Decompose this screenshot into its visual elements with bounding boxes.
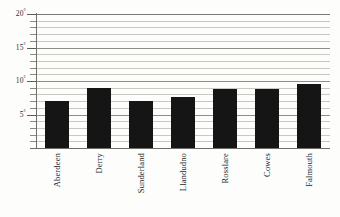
y-axis-tick-label: 20° [2, 10, 26, 18]
x-axis-category-slot: Cowes [246, 151, 288, 217]
bar [171, 97, 195, 148]
y-axis-tick-value: 10 [16, 76, 24, 85]
x-axis-category-label: Rosslare [221, 153, 230, 183]
y-axis-tick-major [27, 81, 36, 82]
x-axis-category-slot: Llandudno [162, 151, 204, 217]
y-axis-tick-major [27, 115, 36, 116]
x-axis-category-slot: Rosslare [204, 151, 246, 217]
bar [297, 84, 321, 148]
bar [87, 88, 111, 148]
bar [129, 101, 153, 148]
x-axis-category-label: Falmouth [305, 153, 314, 187]
x-axis-category-slot: Sunderland [120, 151, 162, 217]
bar [255, 89, 279, 148]
y-axis-tick-label: 15° [2, 44, 26, 52]
x-axis-category-label: Derry [95, 153, 104, 174]
degree-symbol-icon: ° [24, 8, 26, 14]
bar-chart-figure: 20°15°10°5° AberdeenDerrySunderlandLland… [0, 0, 340, 217]
y-axis-tick-value: 15 [16, 43, 24, 52]
y-axis-tick-major [27, 48, 36, 49]
x-axis-line [30, 148, 330, 149]
x-axis-category-label: Cowes [263, 153, 272, 177]
degree-symbol-icon: ° [24, 75, 26, 81]
y-axis-line [36, 13, 37, 149]
x-axis-category-slot: Aberdeen [36, 151, 78, 217]
y-axis-tick-labels: 20°15°10°5° [0, 0, 26, 217]
y-axis-tick-label: 10° [2, 77, 26, 85]
y-axis-tick-major [27, 14, 36, 15]
x-axis-category-slot: Falmouth [288, 151, 330, 217]
degree-symbol-icon: ° [24, 41, 26, 47]
x-axis-category-slot: Derry [78, 151, 120, 217]
bar [213, 89, 237, 148]
x-axis-category-label: Llandudno [179, 153, 188, 191]
x-axis-category-label: Sunderland [137, 153, 146, 193]
x-axis-category-label: Aberdeen [53, 153, 62, 187]
bar [45, 101, 69, 148]
degree-symbol-icon: ° [24, 108, 26, 114]
plot-area [36, 14, 330, 148]
bars-group [36, 14, 330, 148]
y-axis-tick-label: 5° [2, 111, 26, 119]
y-axis-tick-value: 20 [16, 9, 24, 18]
x-axis-category-labels: AberdeenDerrySunderlandLlandudnoRosslare… [36, 151, 330, 217]
